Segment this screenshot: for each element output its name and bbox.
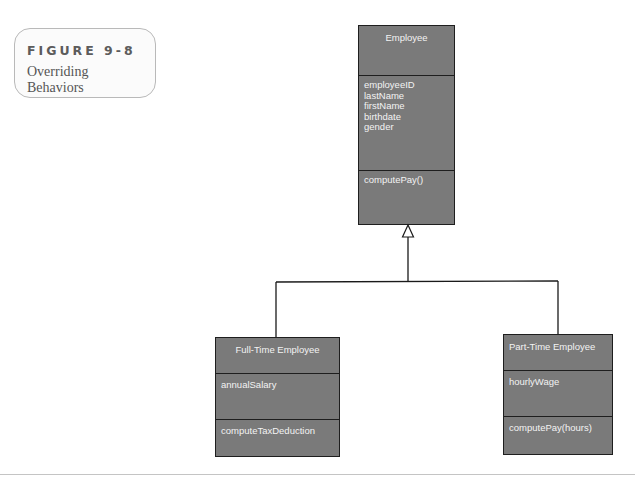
class-name: Part-Time Employee [504, 335, 612, 370]
method: computePay(hours) [509, 423, 607, 434]
methods-section: computeTaxDeduction [216, 419, 339, 456]
attribute: hourlyWage [509, 377, 607, 388]
methods-section: computePay(hours) [504, 416, 612, 454]
class-name: Full-Time Employee [216, 338, 339, 373]
attribute: annualSalary [221, 380, 334, 391]
class-part-time-employee: Part-Time Employee hourlyWage computePay… [503, 334, 613, 455]
page-divider [0, 474, 635, 475]
method: computeTaxDeduction [221, 426, 334, 437]
attributes-section: hourlyWage [504, 370, 612, 416]
attributes-section: annualSalary [216, 373, 339, 419]
class-full-time-employee: Full-Time Employee annualSalary computeT… [215, 337, 340, 457]
